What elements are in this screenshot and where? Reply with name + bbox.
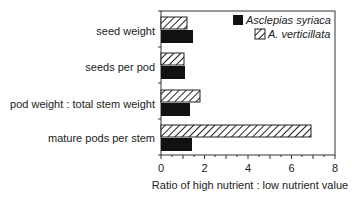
legend-swatch-verticillata [255, 29, 265, 39]
bar-pod-weight-verticillata [161, 90, 200, 102]
bar-mature-pods-verticillata [161, 125, 311, 137]
legend-label: Asclepias syriaca [245, 14, 331, 26]
x-tick-label: 8 [332, 162, 338, 174]
legend-label: A. verticillata [267, 28, 330, 40]
category-label: seed weight [96, 25, 155, 37]
bar-chart: seed weight seeds per pod pod weight : t… [0, 0, 356, 198]
x-tick-label: 0 [158, 162, 164, 174]
x-tick-label: 4 [245, 162, 251, 174]
bar-mature-pods-syriaca [161, 138, 192, 151]
x-tick-label: 6 [288, 162, 294, 174]
legend-swatch-syriaca [233, 15, 243, 25]
bar-seed-weight-verticillata [161, 17, 187, 29]
bar-seeds-per-pod-syriaca [161, 66, 185, 79]
category-label: seeds per pod [85, 61, 155, 73]
bar-seed-weight-syriaca [161, 30, 193, 43]
bar-pod-weight-syriaca [161, 103, 190, 116]
category-label: pod weight : total stem weight [10, 98, 155, 110]
bar-seeds-per-pod-verticillata [161, 53, 184, 65]
category-label: mature pods per stem [48, 132, 155, 144]
x-axis-label: Ratio of high nutrient : low nutrient va… [152, 179, 348, 191]
x-tick-label: 2 [201, 162, 207, 174]
